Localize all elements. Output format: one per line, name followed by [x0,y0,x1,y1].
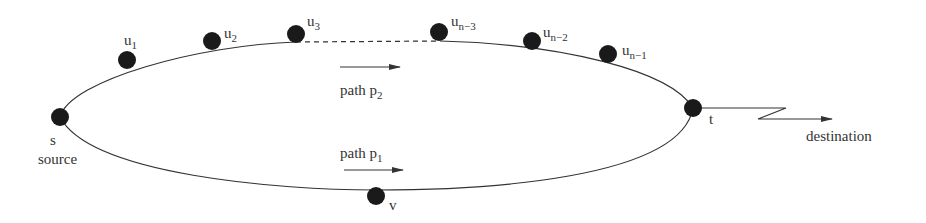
label-u2: u2 [224,25,237,44]
node-un1 [599,45,617,63]
label-source: source [38,151,77,167]
node-u2 [203,32,221,50]
upper-path-left [60,42,296,117]
node-u1 [118,51,136,69]
label-un3: un−3 [451,13,476,32]
label-t: t [709,111,714,127]
upper-path-right [440,41,693,108]
label-u1: u1 [124,32,137,51]
upper-path-dashed [296,41,440,42]
label-un2: un−2 [543,24,568,43]
label-v: v [389,197,397,213]
label-path-p1: path p1 [340,145,383,164]
node-t [684,99,702,117]
node-v [367,187,385,205]
node-un2 [523,32,541,50]
label-un1: un−1 [622,42,647,61]
label-u3: u3 [307,13,321,32]
node-u3 [287,25,305,43]
node-s [51,108,69,126]
label-destination: destination [806,128,872,144]
destination-link [700,108,832,119]
label-s: s [50,132,56,148]
diagram-canvas: u1 u2 u3 un−3 un−2 un−1 s source t v des… [0,0,926,223]
node-un3 [430,23,448,41]
label-path-p2: path p2 [340,82,383,101]
